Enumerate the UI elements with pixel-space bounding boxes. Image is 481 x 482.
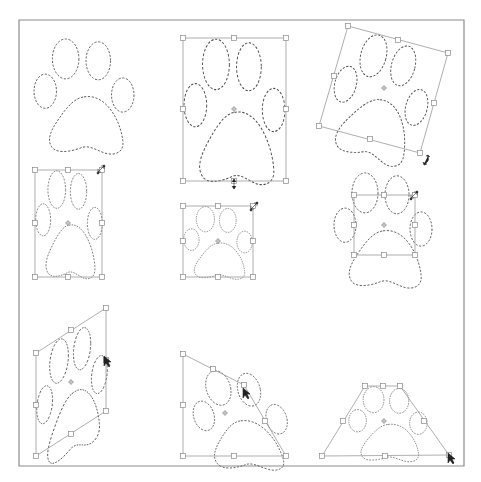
panel-original [34, 39, 134, 154]
paw-marquee [318, 27, 443, 171]
bounding-box[interactable] [34, 306, 109, 459]
panel-scale-shrunk-bbox [334, 173, 432, 288]
paw-marquee [34, 39, 134, 154]
paw-marquee [37, 309, 108, 477]
paw-marquee [184, 39, 285, 184]
panel-scale-corner [33, 165, 106, 280]
bounding-box[interactable] [317, 24, 451, 156]
bounding-box[interactable] [320, 384, 452, 459]
panel-skew [34, 306, 112, 478]
bounding-box[interactable] [181, 36, 289, 184]
rotate-cursor [423, 155, 430, 165]
panel-scale-vertical [181, 36, 289, 190]
panel-distort [181, 352, 296, 471]
panel-rotate [317, 24, 451, 172]
bounding-box[interactable] [33, 168, 105, 280]
panel-scale-proportional [181, 202, 259, 280]
paw-marquee [186, 371, 295, 470]
paw-marquee [334, 173, 432, 288]
transform-examples-figure [0, 0, 481, 482]
panel-perspective [320, 384, 456, 465]
paw-marquee [349, 387, 427, 462]
